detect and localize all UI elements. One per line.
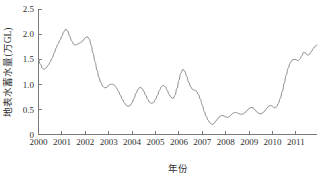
line-chart: 00.51.01.52.02.5 20002001200220032004200…	[0, 0, 334, 177]
x-axis-title: 年份	[168, 163, 188, 174]
x-tick-label: 2004	[123, 137, 142, 147]
x-tick-label: 2009	[240, 137, 259, 147]
y-tick-label: 1.0	[23, 80, 35, 90]
y-tick-label: 0.5	[23, 105, 35, 115]
x-tick-label: 2007	[193, 137, 212, 147]
x-tick-label: 2001	[53, 137, 71, 147]
y-tick-label: 2.5	[23, 4, 35, 14]
y-tick-label: 1.5	[23, 54, 35, 64]
x-tick-label: 2011	[287, 137, 305, 147]
y-axis-title: 地表水蓄水量(万GL)	[2, 28, 14, 117]
chart-container: 00.51.01.52.02.5 20002001200220032004200…	[0, 0, 334, 177]
x-tick-label: 2000	[30, 137, 49, 147]
y-tick-label: 2.0	[23, 29, 35, 39]
x-tick-label: 2005	[147, 137, 166, 147]
x-tick-label: 2008	[217, 137, 236, 147]
y-axis-ticks	[39, 9, 43, 135]
data-series-line	[39, 29, 318, 124]
y-axis-tick-labels: 00.51.01.52.02.5	[23, 4, 35, 140]
x-tick-label: 2002	[76, 137, 94, 147]
x-tick-label: 2010	[264, 137, 283, 147]
x-axis-ticks	[39, 131, 296, 135]
x-axis-tick-labels: 2000200120022003200420052006200720082009…	[30, 137, 305, 147]
x-tick-label: 2003	[100, 137, 119, 147]
x-tick-label: 2006	[170, 137, 189, 147]
